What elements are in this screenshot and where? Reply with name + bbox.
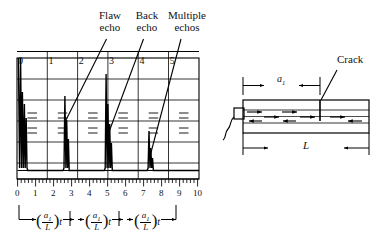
timebase-suffix-3: t (157, 216, 160, 227)
paren-close-3: ) (152, 216, 158, 226)
bottom-axis-tick-2: 2 (51, 188, 56, 198)
top-axis-tick-4: 4 (139, 55, 144, 66)
bottom-axis-tick-10: 10 (193, 188, 202, 198)
bottom-axis-tick-0: 0 (15, 188, 20, 198)
crack-leader (321, 70, 337, 100)
bottom-axis-tick-9: 9 (177, 188, 182, 198)
transducer-cable (223, 117, 234, 140)
fraction-numerator-3: a1 (142, 211, 150, 222)
fraction-a1-over-L-3: a1 L (140, 211, 151, 232)
bottom-axis-tick-1: 1 (33, 188, 38, 198)
bottom-ruler (17, 179, 199, 187)
fraction-denominator-3: L (143, 223, 148, 232)
crack-label: Crack (337, 54, 363, 66)
paren-close-2: ) (103, 216, 109, 226)
bottom-axis-tick-6: 6 (123, 188, 128, 198)
callout-multiple-echos-line1: Multiple (168, 9, 206, 21)
fraction-denominator-1: L (45, 223, 50, 232)
callout-flaw-echo-line1: Flaw (99, 9, 121, 21)
fraction-numerator-2: a1 (93, 211, 101, 222)
callout-flaw-echo-line2: echo (100, 21, 121, 33)
transducer (223, 108, 244, 140)
callout-back-echo: Back echo (130, 10, 164, 33)
paren-open-1: ( (36, 216, 42, 226)
fraction-a1-over-L-1: a1 L (42, 211, 53, 232)
callout-multiple-echos: Multiple echos (163, 10, 211, 33)
dimension-a1-label: a1 (277, 73, 285, 89)
bottom-axis-tick-8: 8 (159, 188, 164, 198)
callout-back-echo-line2: echo (137, 21, 158, 33)
timebase-suffix-1: t (59, 216, 62, 227)
paren-close-1: ) (54, 216, 60, 226)
top-axis-tick-5: 5 (170, 55, 175, 66)
bottom-axis-tick-3: 3 (69, 188, 74, 198)
bottom-axis-tick-5: 5 (105, 188, 110, 198)
top-axis-tick-1: 1 (49, 55, 54, 66)
fraction-a1-over-L-2: a1 L (91, 211, 102, 232)
specimen-schematic (223, 70, 369, 155)
dimension-L-label: L (303, 140, 309, 152)
timebase-segment-2: ( a1 L ) t (85, 211, 111, 232)
bottom-axis-tick-4: 4 (87, 188, 92, 198)
fraction-numerator-1: a1 (44, 211, 52, 222)
paren-open-2: ( (85, 216, 91, 226)
timebase-segment-3: ( a1 L ) t (134, 211, 160, 232)
ultrasonic-testing-figure: Flaw echo Back echo Multiple echos 0 1 2… (0, 0, 374, 248)
fraction-denominator-2: L (94, 223, 99, 232)
callout-back-echo-line1: Back (136, 9, 159, 21)
bottom-axis-tick-7: 7 (141, 188, 146, 198)
top-axis-tick-2: 2 (79, 55, 84, 66)
timebase-suffix-2: t (108, 216, 111, 227)
callout-multiple-echos-line2: echos (174, 21, 199, 33)
callout-flaw-echo: Flaw echo (93, 10, 127, 33)
paren-open-3: ( (134, 216, 140, 226)
top-axis-tick-0: 0 (18, 55, 23, 66)
timebase-segment-1: ( a1 L ) t (36, 211, 62, 232)
top-axis-tick-3: 3 (109, 55, 114, 66)
beam-arrows (247, 112, 362, 121)
